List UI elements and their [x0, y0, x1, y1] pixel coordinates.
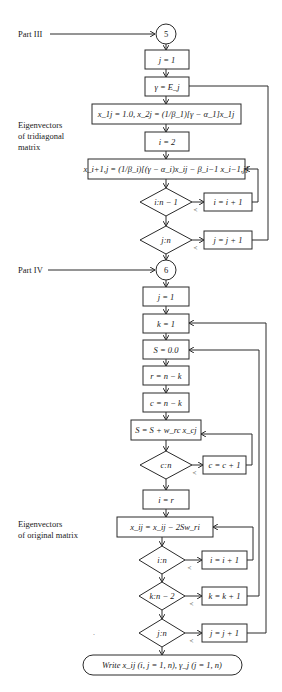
box-inc-j-4-text: j = j + 1 [209, 628, 239, 638]
connector-6-label: 6 [164, 265, 168, 275]
decision-i-n-1-text: i:n − 1 [154, 197, 178, 207]
box-i-assign-text: i = r [158, 495, 174, 505]
decision-j-n-4-text: j:n [156, 628, 166, 638]
tridiagonal-label-1: Eigenvectors [18, 120, 62, 130]
less-than-mark: < [192, 469, 197, 477]
box-j-init-4-text: j = 1 [157, 292, 175, 302]
tridiagonal-label-2: of tridiagonal [18, 131, 65, 141]
box-s-init-text: S = 0.0 [154, 345, 180, 355]
terminal-write-text: Write x_ij (i, j = 1, n), γ_j (j = 1, n) [102, 660, 222, 670]
box-s-accum-text: S = S + w_rc x_cj [135, 425, 197, 435]
box-inc-i-4-text: i = i + 1 [210, 555, 239, 565]
part-iii-label: Part III [18, 29, 42, 39]
box-x-init-text: x_1j = 1.0, x_2j = (1/β_1)[γ − α_1]x_1j [97, 109, 235, 119]
box-i-init-text: i = 2 [159, 137, 176, 147]
box-inc-i-text: i = i + 1 [214, 197, 243, 207]
box-k-init-text: k = 1 [157, 319, 175, 329]
box-r-assign-text: r = n − k [150, 371, 182, 381]
box-c-assign-text: c = n − k [150, 398, 182, 408]
decision-c-n-text: c:n [161, 460, 172, 470]
box-x-update-text: x_ij = x_ij − 2Sw_ri [129, 522, 200, 532]
part-iv-label: Part IV [18, 265, 44, 275]
box-inc-j-text: j = j + 1 [213, 235, 243, 245]
original-label-1: Eigenvectors [18, 519, 62, 529]
less-than-mark: < [189, 637, 194, 645]
stray-dot: · [93, 631, 95, 639]
decision-j-n-text: j:n [160, 235, 170, 245]
box-j-init-text: j = 1 [158, 55, 176, 65]
decision-i-n-text: i:n [157, 555, 166, 565]
less-than-mark: < [187, 564, 192, 572]
flowchart: Part III 5 j = 1 γ = E_j x_1j = 1.0, x_2… [0, 0, 282, 692]
decision-k-n-2-text: k:n − 2 [149, 591, 175, 601]
connector-5-label: 5 [164, 29, 168, 39]
box-inc-c-text: c = c + 1 [209, 460, 241, 470]
box-inc-k-text: k = k + 1 [209, 591, 241, 601]
box-x-recur-text: x_i+1,j = (1/β_i)[(γ − α_i)x_ij − β_i−1 … [82, 164, 248, 174]
less-than-mark: < [193, 206, 198, 214]
original-label-2: of original matrix [18, 530, 79, 540]
less-than-mark: < [189, 600, 194, 608]
tridiagonal-label-3: matrix [18, 142, 41, 152]
less-than-mark: < [193, 244, 198, 252]
box-gamma-text: γ = E_j [154, 82, 180, 92]
